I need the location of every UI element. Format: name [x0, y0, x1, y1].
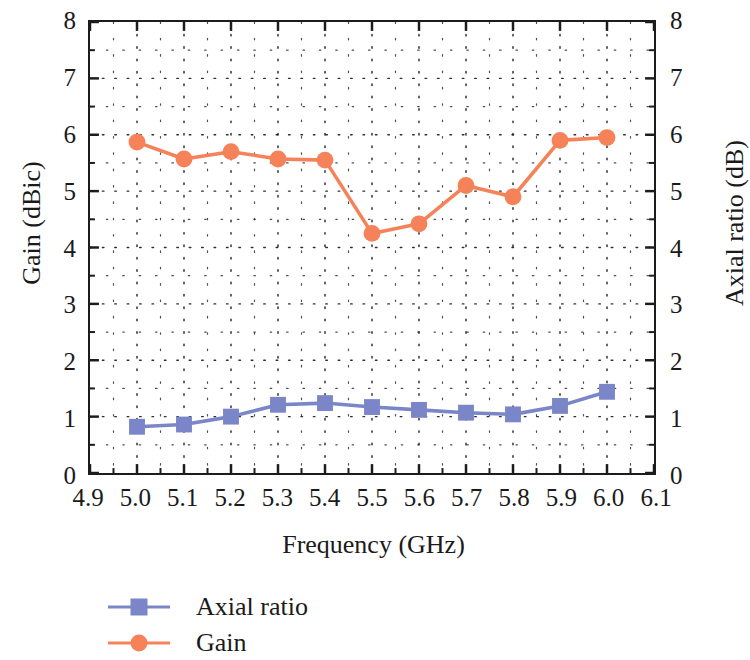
- data-point: [317, 395, 333, 411]
- x-tick-label: 6.0: [593, 485, 624, 510]
- y-tick-label-right: 3: [670, 292, 710, 317]
- plot-area: [88, 20, 656, 475]
- data-point: [364, 399, 380, 415]
- data-point: [505, 188, 522, 205]
- legend-swatch: [108, 596, 170, 618]
- data-point: [411, 402, 427, 418]
- data-point: [317, 152, 334, 169]
- x-axis-title: Frequency (GHz): [0, 530, 747, 560]
- data-point: [176, 417, 192, 433]
- legend-item-axial-ratio[interactable]: Axial ratio: [108, 592, 308, 622]
- y-tick-label-left: 8: [36, 8, 76, 33]
- y-tick-label-right: 2: [670, 349, 710, 374]
- y-tick-label-left: 0: [36, 463, 76, 488]
- x-tick-label: 4.9: [72, 485, 103, 510]
- legend-swatch: [108, 632, 170, 654]
- data-point: [599, 384, 615, 400]
- x-tick-label: 5.3: [262, 485, 293, 510]
- x-tick-label: 5.0: [120, 485, 151, 510]
- y-tick-label-right: 6: [670, 121, 710, 146]
- y-tick-label-left: 1: [36, 406, 76, 431]
- y-tick-label-right: 7: [670, 64, 710, 89]
- x-tick-label: 5.1: [167, 485, 198, 510]
- data-point: [552, 132, 569, 149]
- legend-item-gain[interactable]: Gain: [108, 628, 308, 658]
- y-tick-label-right: 1: [670, 406, 710, 431]
- data-point: [129, 134, 146, 151]
- legend-marker-square-icon: [131, 599, 148, 616]
- data-point: [458, 177, 475, 194]
- data-point: [223, 409, 239, 425]
- y-tick-label-right: 8: [670, 8, 710, 33]
- data-point: [458, 405, 474, 421]
- legend-label: Axial ratio: [196, 592, 308, 622]
- x-tick-label: 5.6: [404, 485, 435, 510]
- x-tick-label: 5.7: [451, 485, 482, 510]
- data-series-layer: [90, 22, 654, 473]
- data-point: [176, 151, 193, 168]
- legend-label: Gain: [196, 628, 247, 658]
- y-axis-left-title: Gain (dBic): [17, 73, 47, 373]
- data-point: [129, 419, 145, 435]
- data-point: [223, 143, 240, 160]
- x-tick-label: 5.8: [498, 485, 529, 510]
- x-tick-label: 6.1: [640, 485, 671, 510]
- x-tick-label: 5.9: [546, 485, 577, 510]
- x-tick-label: 5.2: [214, 485, 245, 510]
- data-point: [411, 215, 428, 232]
- y-tick-label-right: 0: [670, 463, 710, 488]
- data-point: [364, 225, 381, 242]
- data-point: [270, 151, 287, 168]
- x-tick-label: 5.5: [356, 485, 387, 510]
- legend-marker-circle-icon: [131, 635, 148, 652]
- y-tick-label-right: 4: [670, 235, 710, 260]
- y-axis-right-title: Axial ratio (dB): [720, 73, 750, 373]
- x-tick-label: 5.4: [309, 485, 340, 510]
- y-tick-label-right: 5: [670, 178, 710, 203]
- chart-legend: Axial ratioGain: [108, 592, 308, 658]
- data-point: [270, 397, 286, 413]
- data-point: [505, 406, 521, 422]
- data-point: [552, 398, 568, 414]
- data-point: [599, 129, 616, 146]
